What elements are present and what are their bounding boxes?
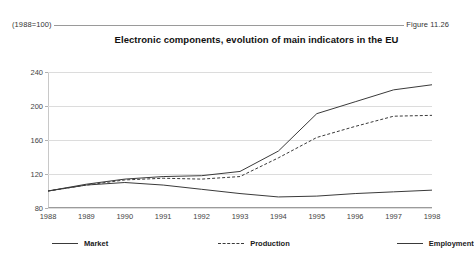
- legend-item-production[interactable]: Production: [218, 239, 290, 248]
- y-tick-mark: [45, 208, 48, 209]
- legend-label-production: Production: [250, 239, 290, 248]
- x-tick-label: 1989: [78, 212, 95, 221]
- x-tick-label: 1994: [270, 212, 287, 221]
- legend-label-market: Market: [84, 239, 108, 248]
- y-tick-label: 240: [30, 68, 43, 77]
- y-tick-label: 160: [30, 136, 43, 145]
- chart-legend: Market Production Employment: [48, 236, 438, 250]
- legend-item-employment[interactable]: Employment: [397, 239, 474, 248]
- series-lines: [48, 72, 432, 208]
- x-tick-label: 1995: [308, 212, 325, 221]
- x-tick-label: 1988: [40, 212, 57, 221]
- legend-line-icon-production: [218, 243, 244, 244]
- legend-line-icon-market: [52, 243, 78, 244]
- series-line-production: [48, 115, 432, 191]
- x-tick-label: 1990: [116, 212, 133, 221]
- series-line-employment: [48, 183, 432, 197]
- x-tick-label: 1992: [193, 212, 210, 221]
- y-tick-label: 120: [30, 170, 43, 179]
- x-tick-label: 1997: [385, 212, 402, 221]
- plot-area: 80120160200240 1988198919901991199219931…: [48, 72, 432, 208]
- gridline: [48, 208, 432, 209]
- x-tick-label: 1996: [347, 212, 364, 221]
- x-tick-label: 1993: [232, 212, 249, 221]
- y-tick-label: 200: [30, 102, 43, 111]
- legend-label-employment: Employment: [429, 239, 474, 248]
- legend-line-icon-employment: [397, 243, 423, 244]
- legend-item-market[interactable]: Market: [52, 239, 108, 248]
- x-tick-label: 1998: [424, 212, 441, 221]
- series-line-market: [48, 85, 432, 191]
- x-tick-label: 1991: [155, 212, 172, 221]
